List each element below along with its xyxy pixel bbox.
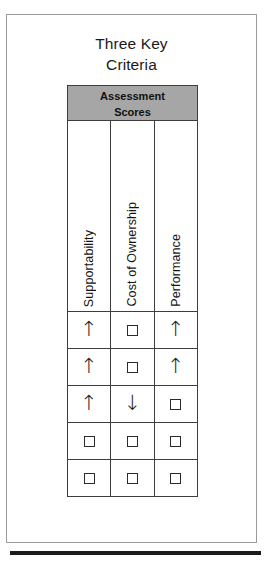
score-cell (111, 349, 154, 386)
column-header-label: Cost of Ownership (125, 202, 139, 307)
score-cell (154, 423, 197, 460)
table-row: ↑ ↑ (68, 349, 198, 386)
score-cell: ↑ (154, 349, 197, 386)
square-icon (170, 436, 181, 447)
criteria-table: Assessment Scores Supportability Cost of… (67, 85, 198, 497)
score-cell (111, 460, 154, 497)
score-cell: ↑ (68, 349, 111, 386)
score-cell (68, 423, 111, 460)
square-icon (170, 399, 181, 410)
score-cell (111, 423, 154, 460)
table-banner-row: Assessment Scores (68, 86, 198, 121)
square-icon (84, 436, 95, 447)
up-arrow-icon: ↑ (167, 356, 185, 377)
vertical-label-wrap: Cost of Ownership (111, 124, 153, 307)
square-icon (127, 362, 138, 373)
square-icon (127, 473, 138, 484)
score-cell (154, 460, 197, 497)
banner-line-1: Assessment (68, 88, 197, 104)
table-row: ↑ ↑ (68, 312, 198, 349)
table-row: ↑ ↓ (68, 386, 198, 423)
assessment-scores-banner: Assessment Scores (68, 86, 198, 121)
score-cell: ↑ (68, 386, 111, 423)
table-row (68, 460, 198, 497)
up-arrow-icon: ↑ (167, 319, 185, 340)
banner-line-2: Scores (68, 104, 197, 120)
page-title: Three Key Criteria (7, 33, 256, 75)
square-icon (127, 436, 138, 447)
score-cell: ↓ (111, 386, 154, 423)
page-title-line-2: Criteria (7, 54, 256, 75)
up-arrow-icon: ↑ (80, 356, 98, 377)
slide-frame: Three Key Criteria Assessment Scores Sup… (6, 14, 257, 543)
score-cell (154, 386, 197, 423)
down-arrow-icon: ↓ (124, 393, 142, 414)
square-icon (170, 473, 181, 484)
score-cell (68, 460, 111, 497)
table-row (68, 423, 198, 460)
column-header-label: Performance (169, 234, 183, 307)
page-title-line-1: Three Key (7, 33, 256, 54)
table-header-row: Supportability Cost of Ownership Perform… (68, 121, 198, 312)
column-header-performance: Performance (154, 121, 197, 312)
score-cell: ↑ (68, 312, 111, 349)
bottom-divider-rule (10, 551, 261, 555)
vertical-label-wrap: Performance (155, 124, 197, 307)
square-icon (84, 473, 95, 484)
up-arrow-icon: ↑ (80, 393, 98, 414)
score-cell (111, 312, 154, 349)
square-icon (127, 325, 138, 336)
column-header-cost-of-ownership: Cost of Ownership (111, 121, 154, 312)
column-header-label: Supportability (82, 230, 96, 307)
vertical-label-wrap: Supportability (68, 124, 110, 307)
column-header-supportability: Supportability (68, 121, 111, 312)
score-cell: ↑ (154, 312, 197, 349)
up-arrow-icon: ↑ (80, 319, 98, 340)
